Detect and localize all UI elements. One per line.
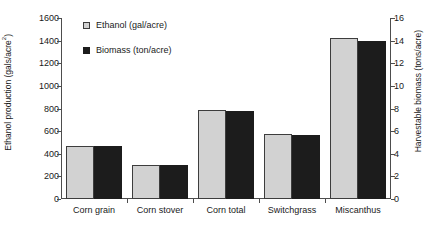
y-tick-mark-right <box>391 86 395 87</box>
y-tick-mark-left <box>57 154 61 155</box>
y-tick-mark-right <box>391 109 395 110</box>
bar-ethanol <box>330 38 358 199</box>
y-tick-mark-left <box>57 63 61 64</box>
x-axis-ticklabels: Corn grainCorn stoverCorn totalSwitchgra… <box>61 205 391 221</box>
bar-biomass <box>160 165 188 199</box>
y-tick-mark-right <box>391 154 395 155</box>
x-tick-mark <box>325 199 326 203</box>
legend-swatch-biomass-icon <box>83 47 90 54</box>
legend-item-biomass: Biomass (ton/acre) <box>83 44 172 56</box>
y-tick-mark-right <box>391 176 395 177</box>
bar-group <box>66 146 122 199</box>
y-tick-right-16: 16 <box>394 13 404 23</box>
x-tick-label: Miscanthus <box>335 205 381 215</box>
y-tick-mark-left <box>57 176 61 177</box>
y-tick-mark-right <box>391 131 395 132</box>
bar-biomass <box>292 135 320 199</box>
x-tick-mark <box>127 199 128 203</box>
legend-label-ethanol: Ethanol (gal/acre) <box>96 20 167 30</box>
y-tick-mark-right <box>391 63 395 64</box>
y-tick-right-12: 12 <box>394 58 404 68</box>
y-tick-right-10: 10 <box>394 81 404 91</box>
x-tick-label: Switchgrass <box>268 205 317 215</box>
y-tick-mark-left <box>57 86 61 87</box>
bar-ethanol <box>264 134 292 199</box>
y-axis-left-title: Ethanol production (gals/acre2) <box>1 34 12 151</box>
x-tick-mark <box>259 199 260 203</box>
chart-figure: Ethanol production (gals/acre2) Harvesta… <box>0 0 427 236</box>
y-tick-mark-left <box>57 109 61 110</box>
x-tick-label: Corn grain <box>73 205 115 215</box>
chart-legend: Ethanol (gal/acre) Biomass (ton/acre) <box>83 19 172 69</box>
x-tick-mark <box>193 199 194 203</box>
bar-group <box>330 38 386 199</box>
bar-biomass <box>358 41 386 199</box>
bar-group <box>132 165 188 199</box>
legend-swatch-ethanol-icon <box>83 22 90 29</box>
y-tick-left-1600: 1600 <box>39 13 59 23</box>
bar-ethanol <box>198 110 226 199</box>
bar-group <box>264 134 320 199</box>
y-tick-mark-left <box>57 199 61 200</box>
x-tick-label: Corn total <box>206 205 245 215</box>
y-tick-left-1000: 1000 <box>39 81 59 91</box>
y-tick-mark-left <box>57 41 61 42</box>
y-tick-left-1400: 1400 <box>39 36 59 46</box>
y-tick-mark-right <box>391 18 395 19</box>
y-tick-mark-right <box>391 41 395 42</box>
bar-group <box>198 110 254 199</box>
y-tick-mark-left <box>57 131 61 132</box>
y-tick-mark-left <box>57 18 61 19</box>
y-axis-right-title: Harvestable biomass (tons/acre) <box>414 30 423 152</box>
x-tick-label: Corn stover <box>137 205 184 215</box>
y-tick-mark-right <box>391 199 395 200</box>
bar-ethanol <box>66 146 94 199</box>
bar-ethanol <box>132 165 160 199</box>
legend-item-ethanol: Ethanol (gal/acre) <box>83 19 172 31</box>
bar-biomass <box>94 146 122 199</box>
bar-biomass <box>226 111 254 199</box>
y-tick-right-14: 14 <box>394 36 404 46</box>
legend-label-biomass: Biomass (ton/acre) <box>96 45 172 55</box>
y-tick-left-1200: 1200 <box>39 58 59 68</box>
